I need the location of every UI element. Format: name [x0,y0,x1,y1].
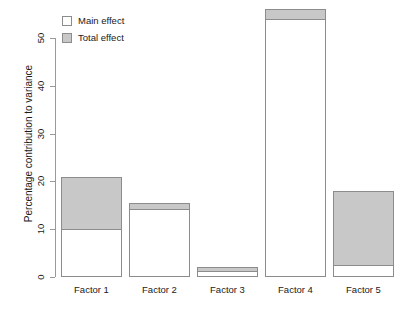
plot-area [56,0,410,277]
y-axis-title: Percentage contribution to variance [23,19,34,269]
x-axis-label: Factor 4 [265,284,326,295]
bar-group [61,177,122,277]
y-axis-tick-label: 30 [33,127,47,141]
y-axis-tick-label: 40 [33,79,47,93]
x-axis-label: Factor 3 [197,284,258,295]
bar-segment-main-effect [61,229,122,277]
y-axis-tick [50,134,55,135]
bar-group [333,191,394,277]
x-axis-label: Factor 1 [61,284,122,295]
bar-chart: Percentage contribution to variance 5040… [0,0,410,315]
y-axis-tick [50,86,55,87]
bar-segment-main-effect [129,209,190,277]
y-axis-tick-label: 0 [33,270,47,284]
y-axis-tick [50,38,55,39]
x-axis-label: Factor 2 [129,284,190,295]
y-axis-tick [50,277,55,278]
bar-segment-main-effect [333,265,394,277]
bar-group [129,203,190,277]
y-axis-tick-label: 50 [33,31,47,45]
bar-group [265,9,326,277]
x-axis-label: Factor 5 [333,284,394,295]
y-axis-tick-label: 10 [33,222,47,236]
bar-segment-main-effect [197,271,258,277]
y-axis-tick [50,229,55,230]
bar-group [197,267,258,277]
y-axis-tick [50,181,55,182]
y-axis-tick-label: 20 [33,174,47,188]
bar-segment-main-effect [265,19,326,277]
